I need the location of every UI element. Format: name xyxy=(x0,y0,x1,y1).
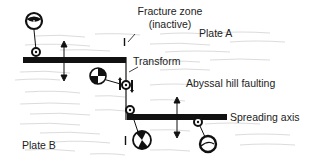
abyssal-hill-faulting-label: Abyssal hill faulting xyxy=(186,78,275,89)
seafloor-texture xyxy=(15,32,295,155)
spreading-axis-label: Spreading axis xyxy=(230,112,299,123)
fracture-zone-leader xyxy=(128,34,135,42)
plate-a-label: Plate A xyxy=(199,28,232,39)
ridge-segment-upper xyxy=(23,57,126,63)
fracture-zone-sublabel: (inactive) xyxy=(133,19,207,30)
strike-slip-beachball-lower-center-icon xyxy=(126,106,151,149)
normal-fault-beachball-upper-left-icon xyxy=(26,13,42,56)
fracture-zone-label: Fracture zone xyxy=(133,6,207,17)
transform-label: Transform xyxy=(133,56,180,67)
plate-b-label: Plate B xyxy=(22,140,56,151)
transform-leader xyxy=(129,67,138,72)
strike-slip-beachball-transform-icon xyxy=(90,68,124,85)
